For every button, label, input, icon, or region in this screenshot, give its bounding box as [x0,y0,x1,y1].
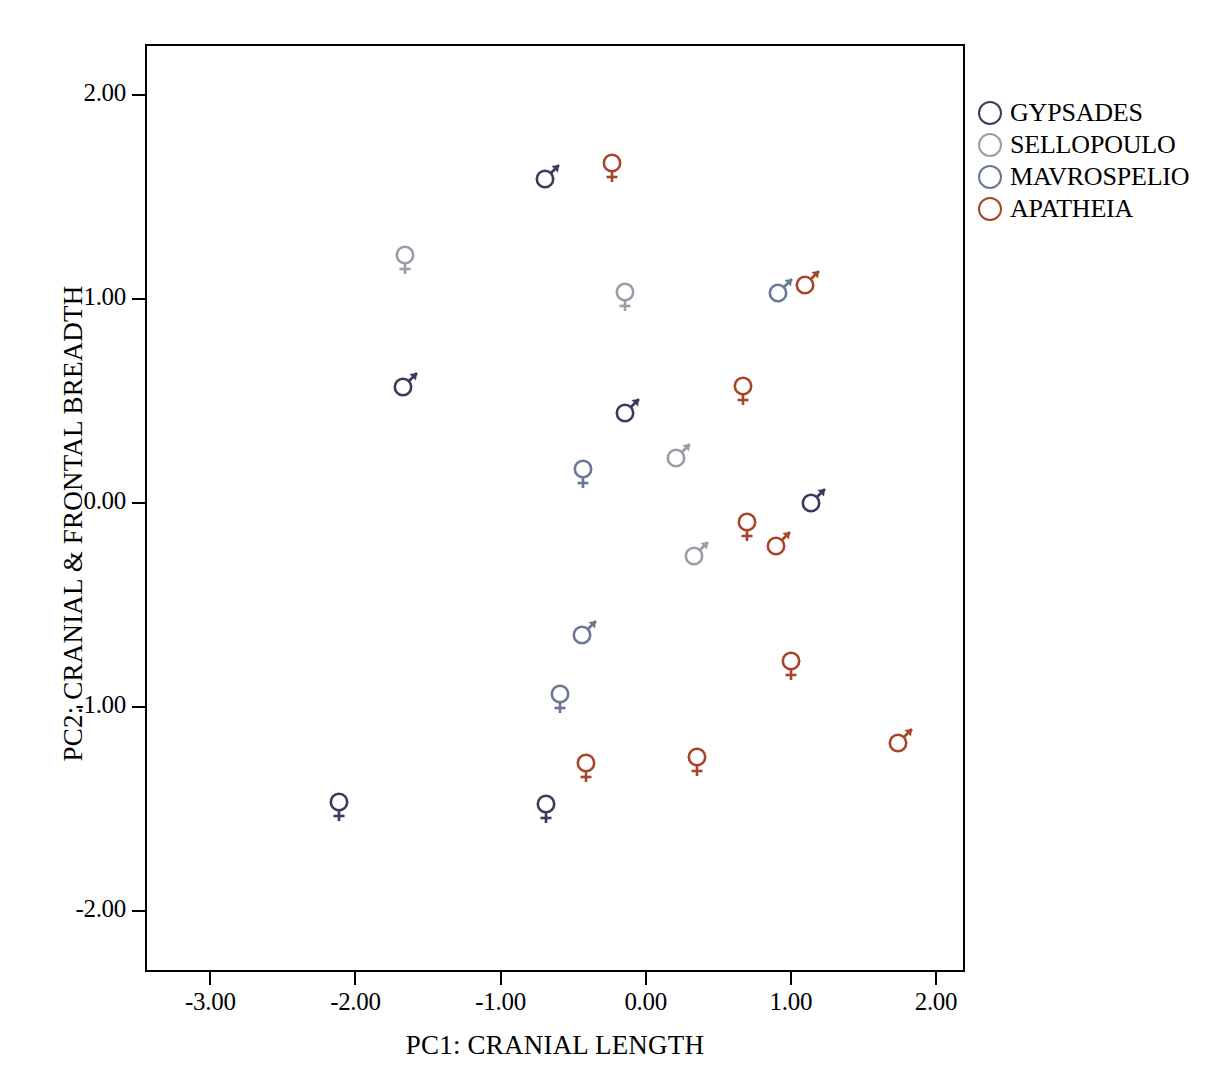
y-axis-title: PC2: CRANIAL & FRONTAL BREADTH [58,144,89,904]
x-axis-tick [209,972,211,985]
y-axis-tick [132,94,145,96]
data-point-male-marker[interactable] [762,525,796,559]
data-point-female-marker[interactable] [726,374,760,408]
legend-item-apatheia[interactable]: APATHEIA [978,194,1214,224]
data-point-female-marker[interactable] [543,682,577,716]
data-point-female-marker[interactable] [569,751,603,785]
y-axis-tick [132,298,145,300]
data-point-female-marker[interactable] [608,280,642,314]
x-axis-tick [645,972,647,985]
x-axis-tick-label: -2.00 [300,988,410,1016]
legend-item-label: MAVROSPELIO [1010,162,1189,192]
data-point-female-marker[interactable] [388,243,422,277]
legend-item-mavrospelio[interactable]: MAVROSPELIO [978,162,1214,192]
legend-swatch-circle-icon [978,165,1002,189]
legend-item-label: GYPSADES [1010,98,1143,128]
legend-item-label: APATHEIA [1010,194,1133,224]
y-axis-tick [132,502,145,504]
data-point-female-marker[interactable] [566,457,600,491]
data-point-female-marker[interactable] [680,745,714,779]
data-point-female-marker[interactable] [595,151,629,185]
data-point-female-marker[interactable] [322,790,356,824]
legend-item-label: SELLOPOULO [1010,130,1176,160]
data-point-male-marker[interactable] [389,366,423,400]
data-point-male-marker[interactable] [662,437,696,471]
data-point-male-marker[interactable] [611,392,645,426]
x-axis-tick-label: -3.00 [155,988,265,1016]
y-axis-tick [132,706,145,708]
legend-item-sellopoulo[interactable]: SELLOPOULO [978,130,1214,160]
x-axis-tick-label: 1.00 [736,988,846,1016]
legend-swatch-circle-icon [978,101,1002,125]
scatter-plot-figure: -3.00-2.00-1.000.001.002.002.001.000.00-… [0,0,1220,1092]
x-axis-tick [354,972,356,985]
y-axis-tick [132,910,145,912]
legend-swatch-circle-icon [978,197,1002,221]
x-axis-tick [790,972,792,985]
data-point-male-marker[interactable] [568,614,602,648]
data-point-male-marker[interactable] [791,264,825,298]
x-axis-tick [500,972,502,985]
x-axis-title: PC1: CRANIAL LENGTH [145,1030,965,1061]
x-axis-tick-label: 0.00 [591,988,701,1016]
data-point-male-marker[interactable] [531,158,565,192]
y-axis-tick-label: 2.00 [0,79,126,107]
data-point-male-marker[interactable] [797,482,831,516]
legend-swatch-circle-icon [978,133,1002,157]
data-point-female-marker[interactable] [529,792,563,826]
x-axis-tick-label: 2.00 [881,988,991,1016]
legend-item-gypsades[interactable]: GYPSADES [978,98,1214,128]
x-axis-tick-label: -1.00 [446,988,556,1016]
data-point-female-marker[interactable] [730,510,764,544]
legend: GYPSADESSELLOPOULOMAVROSPELIOAPATHEIA [978,98,1214,226]
x-axis-tick [935,972,937,985]
data-point-female-marker[interactable] [774,649,808,683]
data-point-male-marker[interactable] [680,535,714,569]
data-point-male-marker[interactable] [884,722,918,756]
